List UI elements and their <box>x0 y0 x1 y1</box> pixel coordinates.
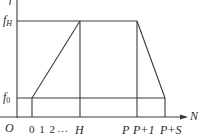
y-axis-label: f <box>9 0 12 4</box>
f0-label-sub: 0 <box>6 96 10 105</box>
origin-label: O <box>5 122 14 134</box>
fh-label: fH <box>3 14 12 28</box>
x-tick-p: P <box>122 124 129 136</box>
trapezoid-diagram <box>0 0 202 137</box>
x-tick-p-plus-s: P+S <box>160 124 181 136</box>
ramp-up-line <box>32 21 80 98</box>
ramp-down-line <box>137 21 165 98</box>
fh-label-sub: H <box>6 19 12 28</box>
x-tick-012: 0 1 2 <box>29 124 56 135</box>
x-axis-label: N <box>190 110 198 122</box>
x-tick-h: H <box>75 124 84 136</box>
x-tick-dots: … <box>57 123 68 134</box>
f0-label: f0 <box>3 91 10 105</box>
x-tick-p-plus-1: P+1 <box>133 124 154 136</box>
x-axis-arrow-icon <box>180 115 188 120</box>
